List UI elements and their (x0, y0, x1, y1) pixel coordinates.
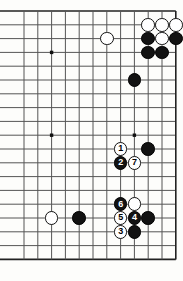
white-stone[interactable] (155, 32, 169, 46)
white-stone[interactable] (100, 32, 114, 46)
black-stone[interactable] (72, 211, 86, 225)
black-stone[interactable] (155, 46, 169, 60)
board-surface[interactable]: 1276543 (0, 0, 183, 281)
black-stone[interactable] (141, 211, 155, 225)
move-number-label: 6 (118, 200, 123, 209)
black-stone[interactable] (128, 73, 142, 87)
move-stone-4[interactable]: 4 (128, 211, 142, 225)
move-stone-5[interactable]: 5 (114, 211, 128, 225)
move-stone-2[interactable]: 2 (114, 156, 128, 170)
black-stone[interactable] (141, 46, 155, 60)
white-stone[interactable] (169, 18, 183, 32)
white-stone[interactable] (155, 18, 169, 32)
black-stone[interactable] (141, 142, 155, 156)
move-number-label: 2 (118, 158, 123, 167)
move-number-label: 1 (118, 144, 123, 153)
black-stone[interactable] (169, 32, 183, 46)
white-stone[interactable] (45, 211, 59, 225)
move-stone-1[interactable]: 1 (114, 142, 128, 156)
black-stone[interactable] (128, 225, 142, 239)
move-stone-3[interactable]: 3 (114, 225, 128, 239)
white-stone[interactable] (128, 197, 142, 211)
go-board-diagram: 1276543 (0, 0, 183, 281)
star-point (133, 134, 136, 137)
move-number-label: 7 (132, 158, 137, 167)
move-number-label: 4 (132, 213, 137, 222)
move-number-label: 3 (118, 227, 123, 236)
star-point (50, 51, 53, 54)
white-stone[interactable] (141, 18, 155, 32)
star-point (50, 134, 53, 137)
move-number-label: 5 (118, 213, 123, 222)
move-stone-7[interactable]: 7 (128, 156, 142, 170)
